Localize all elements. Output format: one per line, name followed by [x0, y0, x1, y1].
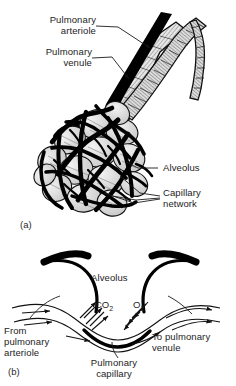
label-alveolus-a: Alveolus	[163, 162, 200, 173]
label-co2: CO2	[95, 299, 113, 312]
label-o2: O2	[133, 299, 144, 312]
panel-a-id: (a)	[20, 219, 32, 230]
o2-subscript: 2	[140, 305, 144, 312]
panel-b-id: (b)	[8, 366, 20, 377]
label-pulmonary-arteriole: Pulmonary arteriole	[16, 14, 96, 36]
label-pulmonary-capillary: Pulmonary capillary	[74, 357, 154, 379]
label-capillary-network: Capillary network	[163, 187, 201, 209]
label-pulmonary-venule: Pulmonary venule	[10, 46, 92, 68]
label-from-pulmonary-arteriole: From pulmonary arteriole	[4, 325, 49, 358]
figure-container: Pulmonary arteriole Pulmonary venule Alv…	[0, 0, 236, 386]
label-to-pulmonary-venule: To pulmonary venule	[152, 331, 210, 353]
co2-subscript: 2	[109, 305, 113, 312]
label-alveolus-b: Alveolus	[91, 272, 128, 283]
co2-text: CO	[95, 299, 109, 310]
